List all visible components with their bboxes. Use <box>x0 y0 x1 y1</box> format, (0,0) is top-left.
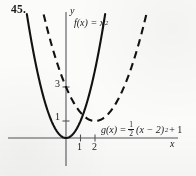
one-half-fraction: 12 <box>128 121 134 138</box>
function-label-f: f(x) = x2 <box>74 18 108 28</box>
problem-number: 45. <box>11 4 26 16</box>
function-label-f-text: f(x) = x <box>74 18 104 28</box>
textbook-figure: 45. y x 3 1 1 2 f(x) = x2 g(x) = 12(x − … <box>0 0 196 176</box>
x-tick-label-1: 1 <box>77 142 82 152</box>
x-axis-label: x <box>170 139 174 149</box>
function-label-g-prefix: g(x) = <box>101 125 126 135</box>
function-label-g-suffix: + 1 <box>169 125 182 135</box>
y-tick-label-1: 1 <box>55 112 60 122</box>
function-label-g-binomial: (x − 2) <box>136 125 164 135</box>
fraction-numerator: 1 <box>128 121 134 129</box>
function-label-g: g(x) = 12(x − 2)2 + 1 <box>101 121 182 138</box>
y-tick-label-3: 3 <box>55 79 60 89</box>
x-tick-label-2: 2 <box>92 142 97 152</box>
y-axis-label: y <box>70 6 74 16</box>
fraction-denominator: 2 <box>128 129 134 138</box>
